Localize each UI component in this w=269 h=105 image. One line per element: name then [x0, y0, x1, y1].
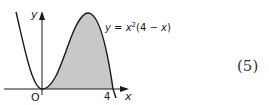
origin-label: O	[31, 91, 40, 104]
y-axis-arrow-icon	[39, 11, 45, 20]
marks-label: (5)	[237, 57, 258, 75]
graph: y O 4 x y = x2(4 − x)	[0, 0, 269, 105]
curve-equation: y = x2(4 − x)	[104, 21, 171, 33]
x-axis-label: x	[124, 90, 132, 103]
root-label: 4	[104, 91, 110, 102]
y-axis-label: y	[30, 8, 38, 21]
